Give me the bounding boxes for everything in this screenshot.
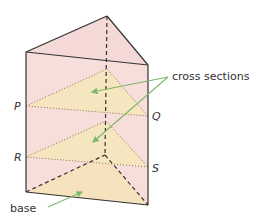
point-q-label: Q: [152, 110, 161, 123]
cross-sections-label: cross sections: [172, 70, 250, 83]
point-p-label: P: [14, 100, 21, 113]
point-s-label: S: [152, 162, 159, 175]
base-label: base: [10, 202, 36, 215]
point-r-label: R: [14, 151, 22, 164]
prism-diagram: cross sections base P Q R S: [0, 0, 259, 224]
